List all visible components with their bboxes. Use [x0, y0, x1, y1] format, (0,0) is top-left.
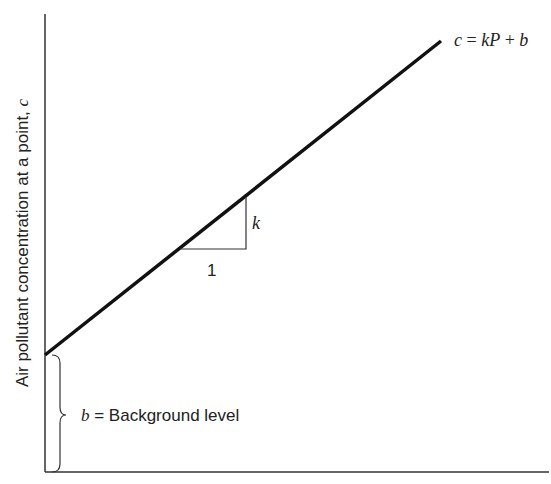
- background-brace: [52, 355, 66, 472]
- background-level-label: b = Background level: [81, 406, 239, 425]
- y-axis-label: Air pollutant concentration at a point, …: [13, 98, 32, 387]
- slope-run-label: 1: [207, 261, 216, 280]
- slope-rise-label: k: [252, 213, 261, 233]
- concentration-line: [45, 41, 441, 355]
- diagram-canvas: Air pollutant concentration at a point, …: [0, 0, 551, 484]
- equation-label: c = kP + b: [454, 30, 528, 50]
